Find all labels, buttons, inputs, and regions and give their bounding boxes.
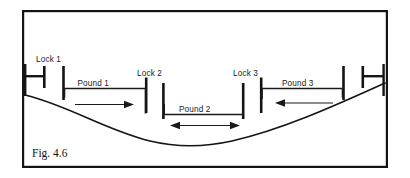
pound-3-flow-arrow <box>275 99 333 106</box>
pound-1-label: Pound 1 <box>78 79 110 88</box>
right-end-structure <box>344 64 385 100</box>
lock-1-structure <box>25 64 63 100</box>
lock-1-label: Lock 1 <box>36 55 61 64</box>
lock-3-structure <box>243 78 261 120</box>
figure-caption: Fig. 4.6 <box>32 147 68 160</box>
pound-3-label: Pound 3 <box>282 79 314 88</box>
pound-1-flow-arrow <box>75 101 134 108</box>
pound-2-flow-arrow <box>170 122 240 129</box>
lock-2-structure <box>146 78 163 120</box>
pound-1-extent-bracket <box>65 89 146 114</box>
figure-page: Lock 1 Lock 2 Lock 3 Pound 1 Pound 2 Pou… <box>0 0 410 178</box>
lock-2-label: Lock 2 <box>137 69 162 78</box>
pound-3-extent-bracket <box>262 89 343 100</box>
canal-lock-diagram: Lock 1 Lock 2 Lock 3 Pound 1 Pound 2 Pou… <box>0 0 410 178</box>
pound-2-label: Pound 2 <box>179 105 211 114</box>
lock-3-label: Lock 3 <box>233 69 258 78</box>
